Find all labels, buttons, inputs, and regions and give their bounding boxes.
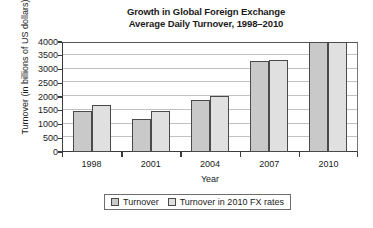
- x-axis-tick-labels: 19982001200420072010: [62, 159, 358, 171]
- y-axis-tick-label: 1000: [26, 120, 58, 129]
- bar-group: [121, 42, 180, 152]
- legend-label: Turnover in 2010 FX rates: [180, 198, 284, 207]
- x-axis-label: Year: [62, 174, 358, 184]
- y-axis-tick-label: 500: [26, 134, 58, 143]
- y-axis-tick-label: 4000: [26, 38, 58, 47]
- x-axis-tick-mark: [180, 152, 181, 157]
- x-axis-tick-mark: [299, 152, 300, 157]
- legend-label: Turnover: [123, 198, 159, 207]
- x-axis-tick-marks: [62, 152, 358, 157]
- bars-layer: [62, 42, 358, 152]
- bar-group: [240, 42, 299, 152]
- x-axis-tick-mark: [121, 152, 122, 157]
- x-axis-tick-label: 2001: [121, 159, 181, 170]
- x-axis-tick-mark: [240, 152, 241, 157]
- x-axis-tick-mark: [62, 152, 63, 157]
- bar: [328, 42, 347, 152]
- bar-group: [180, 42, 239, 152]
- y-axis-tick-labels: 05001000150020002500300035004000: [22, 42, 58, 152]
- chart-title-line-2: Average Daily Turnover, 1998–2010: [56, 18, 356, 30]
- y-axis-tick-label: 2500: [26, 79, 58, 88]
- bar: [250, 61, 269, 152]
- y-axis-tick-label: 2000: [26, 93, 58, 102]
- legend-swatch-icon: [111, 198, 119, 206]
- chart-title: Growth in Global Foreign Exchange Averag…: [56, 6, 356, 30]
- bar: [309, 42, 328, 152]
- bar: [73, 111, 92, 152]
- x-axis-tick-label: 2004: [180, 159, 240, 170]
- y-axis-tick-label: 3500: [26, 51, 58, 60]
- y-axis-tick-label: 1500: [26, 106, 58, 115]
- bar: [132, 119, 151, 152]
- y-axis-tick-label: 3000: [26, 65, 58, 74]
- x-axis-tick-label: 2007: [239, 159, 299, 170]
- chart-figure: Growth in Global Foreign Exchange Averag…: [0, 0, 373, 228]
- bar-group: [62, 42, 121, 152]
- bar: [92, 105, 111, 152]
- bar: [269, 60, 288, 152]
- legend-swatch-icon: [168, 198, 176, 206]
- bar: [191, 100, 210, 152]
- bar: [210, 96, 229, 152]
- x-axis-tick-label: 1998: [62, 159, 122, 170]
- legend-entry: Turnover in 2010 FX rates: [168, 198, 284, 207]
- x-axis-tick-label: 2010: [298, 159, 358, 170]
- legend-entry: Turnover: [111, 198, 159, 207]
- bar-group: [299, 42, 358, 152]
- bar: [151, 111, 170, 152]
- x-axis-tick-mark: [357, 152, 358, 157]
- chart-title-line-1: Growth in Global Foreign Exchange: [56, 6, 356, 18]
- y-axis-tick-label: 0: [26, 148, 58, 157]
- chart-legend: TurnoverTurnover in 2010 FX rates: [104, 194, 291, 210]
